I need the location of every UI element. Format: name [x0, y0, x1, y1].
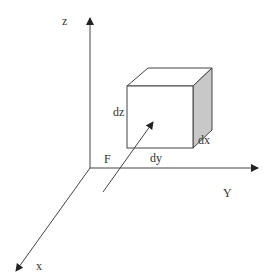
z-axis-label: z	[62, 14, 67, 28]
dy-label: dy	[150, 151, 162, 165]
x-axis	[16, 168, 90, 271]
y-axis-label: Y	[223, 186, 232, 200]
dx-label: dx	[198, 133, 210, 147]
coordinate-cube-diagram: z Y x F dz dx dy	[0, 0, 277, 279]
origin-label: F	[104, 152, 111, 166]
x-axis-label: x	[36, 259, 42, 273]
cube-front-face	[127, 86, 193, 148]
dz-label: dz	[113, 105, 124, 119]
